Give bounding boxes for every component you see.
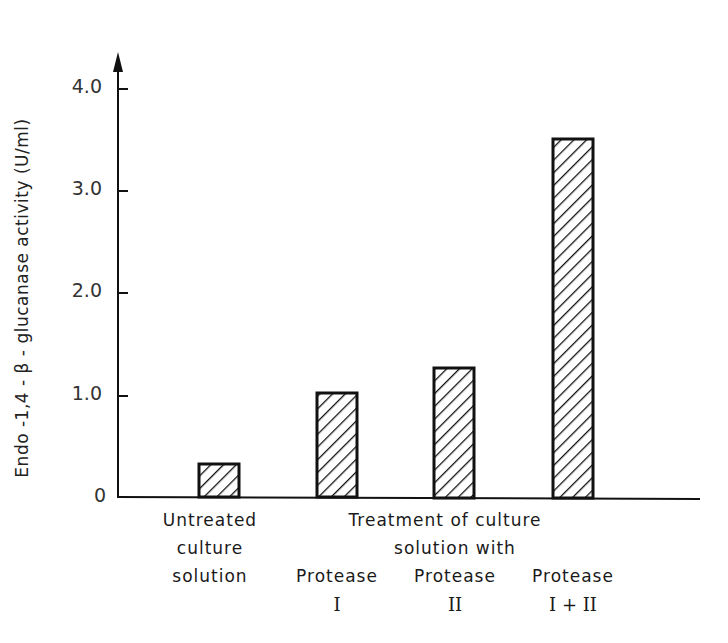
x-label-protease-1-roman: I — [282, 594, 392, 615]
x-label-untreated: Untreated culture solution — [150, 510, 270, 587]
y-tick-2: 2.0 — [42, 279, 102, 301]
y-tick-1: 1.0 — [42, 382, 102, 404]
x-group-label-line2: solution with — [300, 538, 590, 559]
x-label-protease-2-roman: II — [400, 594, 510, 615]
y-ticks — [118, 89, 128, 396]
y-axis-label: Endo -1,4 - β - glucanase activity (U/ml… — [12, 118, 32, 477]
x-label-untreated-line2: culture — [150, 538, 270, 559]
bar-protease-2 — [434, 368, 474, 498]
y-axis-arrow-icon — [113, 52, 123, 72]
x-label-protease-1: Protease I — [282, 566, 392, 615]
x-label-protease-2: Protease II — [400, 566, 510, 615]
x-label-untreated-line1: Untreated — [150, 510, 270, 531]
y-tick-4: 4.0 — [42, 75, 102, 97]
y-tick-3: 3.0 — [42, 177, 102, 199]
x-group-label: Treatment of culture solution with — [300, 510, 590, 559]
bar-protease-1-2 — [553, 139, 593, 498]
x-label-protease-1-name: Protease — [282, 566, 392, 587]
x-group-label-line1: Treatment of culture — [300, 510, 590, 531]
bar-protease-1 — [317, 393, 357, 497]
x-label-protease-1-2-roman: I + II — [518, 594, 628, 615]
x-label-protease-2-name: Protease — [400, 566, 510, 587]
x-label-untreated-line3: solution — [150, 566, 270, 587]
bars — [199, 139, 593, 498]
x-label-protease-1-2: Protease I + II — [518, 566, 628, 615]
x-label-protease-1-2-name: Protease — [518, 566, 628, 587]
bar-untreated — [199, 464, 239, 497]
y-tick-0: 0 — [46, 484, 106, 506]
